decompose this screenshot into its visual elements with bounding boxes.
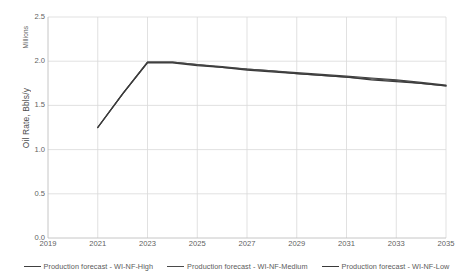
x-axis-tick: 2021: [89, 240, 106, 248]
y-axis-tick: 1.0: [17, 146, 45, 154]
x-axis-tick: 2027: [239, 240, 256, 248]
y-axis-tick-labels: 2.52.01.51.00.50.0: [14, 0, 45, 252]
legend-item[interactable]: Production forecast - WI-NF-Low: [322, 262, 450, 271]
x-axis-tick: 2019: [40, 240, 57, 248]
x-axis-tick-labels: 201920212023202520272029203120332035: [0, 240, 473, 254]
legend-line-icon: [24, 266, 41, 267]
legend-line-icon: [322, 266, 339, 267]
y-axis-tick: 0.5: [17, 190, 45, 198]
legend-item[interactable]: Production forecast - WI-NF-High: [24, 262, 153, 271]
x-axis-tick: 2029: [288, 240, 305, 248]
legend-label: Production forecast - WI-NF-Medium: [187, 262, 308, 271]
chart-legend: Production forecast - WI-NF-HighProducti…: [0, 258, 473, 274]
legend-item[interactable]: Production forecast - WI-NF-Medium: [167, 262, 308, 271]
x-axis-tick: 2031: [338, 240, 355, 248]
y-axis-tick: 2.0: [17, 57, 45, 65]
x-axis-tick: 2035: [438, 240, 455, 248]
oil-rate-forecast-chart: Millions Oil Rate, Bbls/y 2.52.01.51.00.…: [0, 0, 473, 280]
x-axis-tick: 2023: [139, 240, 156, 248]
legend-line-icon: [167, 266, 184, 267]
x-axis-tick: 2025: [189, 240, 206, 248]
y-axis-tick: 1.5: [17, 101, 45, 109]
y-axis-tick: 2.5: [17, 13, 45, 21]
legend-label: Production forecast - WI-NF-Low: [342, 262, 450, 271]
x-axis-tick: 2033: [388, 240, 405, 248]
chart-canvas: [0, 0, 473, 252]
legend-label: Production forecast - WI-NF-High: [44, 262, 153, 271]
plot-area: [0, 0, 473, 252]
